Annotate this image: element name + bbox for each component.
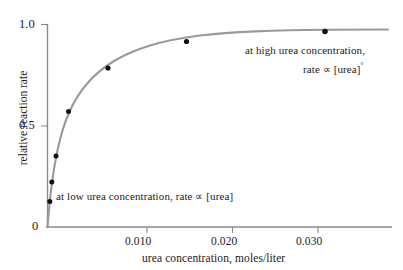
data-point <box>105 65 110 70</box>
annotation-zero-order-superscript: ° <box>361 61 364 70</box>
y-axis-title: relative reaction rate <box>17 43 29 193</box>
x-tick-label-0.030: 0.030 <box>296 235 322 247</box>
data-point <box>47 199 52 204</box>
data-point <box>184 39 189 44</box>
y-tick-label-1.0: 1.0 <box>19 17 35 32</box>
data-point <box>322 29 328 35</box>
data-point <box>49 180 54 185</box>
data-point <box>66 109 71 114</box>
x-axis-title: urea concentration, moles/liter <box>142 252 285 264</box>
chart-canvas <box>0 0 403 270</box>
annotation-high-concentration-line2: rate ∝ [urea]° <box>303 61 364 76</box>
annotation-high-concentration-line2-text: rate ∝ [urea] <box>303 63 361 75</box>
chart-figure: 1.0 0.5 0 0.010 0.020 0.030 urea concent… <box>0 0 403 270</box>
annotation-high-concentration-line1: at high urea concentration, <box>245 44 365 56</box>
x-tick-label-0.020: 0.020 <box>211 235 237 247</box>
annotation-low-concentration: at low urea concentration, rate ∝ [urea] <box>56 190 233 203</box>
y-tick-label-0: 0 <box>32 219 38 234</box>
data-point <box>54 154 59 159</box>
x-tick-label-0.010: 0.010 <box>125 235 151 247</box>
